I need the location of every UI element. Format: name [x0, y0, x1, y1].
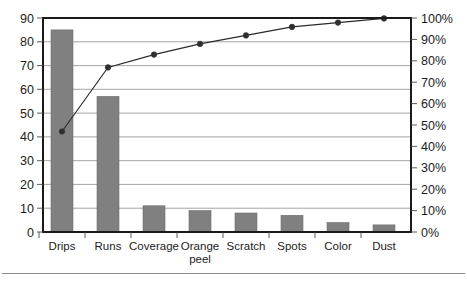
- right-axis-tick-labels: 0% 10% 20% 30% 40% 50% 60% 70% 80% 90% 1…: [421, 12, 453, 240]
- category-label-orange-peel-line1: Orange: [181, 240, 219, 252]
- category-label-color: Color: [324, 240, 352, 252]
- cumulative-point-runs: [105, 65, 111, 71]
- right-tick-label-60: 60%: [421, 97, 446, 111]
- right-tick-label-20: 20%: [421, 183, 446, 197]
- cumulative-point-orange-peel: [197, 41, 203, 47]
- bar-dust: [373, 225, 395, 232]
- left-tick-label-50: 50: [20, 107, 34, 121]
- left-tick-label-70: 70: [20, 59, 34, 73]
- category-label-scratch: Scratch: [227, 240, 266, 252]
- left-tick-label-0: 0: [27, 226, 34, 240]
- right-tick-label-90: 90%: [421, 33, 446, 47]
- bar-orange-peel: [189, 211, 211, 232]
- category-label-coverage: Coverage: [129, 240, 179, 252]
- bar-coverage: [143, 206, 165, 232]
- right-tick-label-80: 80%: [421, 54, 446, 68]
- cumulative-point-drips: [59, 129, 65, 135]
- right-tick-label-70: 70%: [421, 76, 446, 90]
- category-labels: Drips Runs Coverage Orange peel Scratch …: [49, 240, 397, 265]
- category-label-orange-peel-line2: peel: [189, 253, 211, 265]
- left-tick-label-10: 10: [20, 202, 34, 216]
- bar-scratch: [235, 213, 257, 232]
- right-tick-label-0: 0%: [421, 226, 439, 240]
- left-tick-label-20: 20: [20, 178, 34, 192]
- bar-runs: [97, 96, 119, 232]
- category-label-drips: Drips: [49, 240, 76, 252]
- right-tick-label-10: 10%: [421, 204, 446, 218]
- cumulative-point-color: [335, 20, 341, 26]
- cumulative-point-spots: [289, 24, 295, 30]
- left-tick-label-30: 30: [20, 154, 34, 168]
- left-tick-label-60: 60: [20, 83, 34, 97]
- right-tick-label-30: 30%: [421, 161, 446, 175]
- left-axis-tick-labels: 0 10 20 30 40 50 60 70 80 90: [20, 12, 34, 240]
- chart-canvas: 0 10 20 30 40 50 60 70 80 90 0%: [0, 0, 467, 282]
- left-tick-label-40: 40: [20, 130, 34, 144]
- right-tick-label-40: 40%: [421, 140, 446, 154]
- right-tick-label-100: 100%: [421, 12, 453, 26]
- cumulative-point-coverage: [151, 52, 157, 58]
- cumulative-point-scratch: [243, 33, 249, 39]
- right-tick-label-50: 50%: [421, 119, 446, 133]
- left-tick-label-90: 90: [20, 12, 34, 26]
- pareto-chart: 0 10 20 30 40 50 60 70 80 90 0%: [0, 0, 467, 282]
- left-tick-label-80: 80: [20, 35, 34, 49]
- bar-color: [327, 223, 349, 233]
- category-label-runs: Runs: [95, 240, 122, 252]
- category-label-spots: Spots: [277, 240, 307, 252]
- bar-spots: [281, 215, 303, 232]
- category-label-dust: Dust: [372, 240, 396, 252]
